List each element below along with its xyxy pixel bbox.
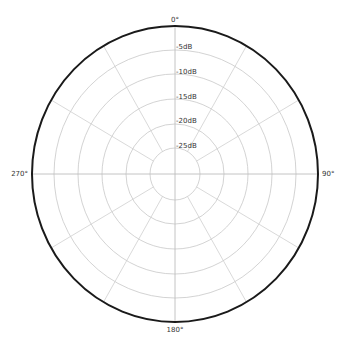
radial-label-minus-25db: -25dB xyxy=(176,142,197,150)
radial-label-minus-10db: -10dB xyxy=(176,68,197,76)
radial-label-minus-15db: -15dB xyxy=(176,93,197,101)
radial-tick-labels: -5dB -10dB -15dB -20dB -25dB xyxy=(176,43,197,150)
angular-tick-labels: 0° 90° 180° 270° xyxy=(11,16,334,334)
main-axes xyxy=(32,26,318,322)
angle-label-0: 0° xyxy=(171,16,179,24)
radial-label-minus-20db: -20dB xyxy=(176,117,197,125)
polar-pattern-chart: -5dB -10dB -15dB -20dB -25dB 0° 90° 180°… xyxy=(0,0,347,342)
angle-label-270: 270° xyxy=(11,170,28,178)
angle-label-180: 180° xyxy=(167,326,184,334)
radial-label-minus-5db: -5dB xyxy=(176,43,192,51)
angle-label-90: 90° xyxy=(322,170,334,178)
